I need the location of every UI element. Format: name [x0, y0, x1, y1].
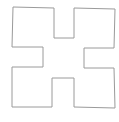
diagram-canvas	[0, 0, 119, 122]
